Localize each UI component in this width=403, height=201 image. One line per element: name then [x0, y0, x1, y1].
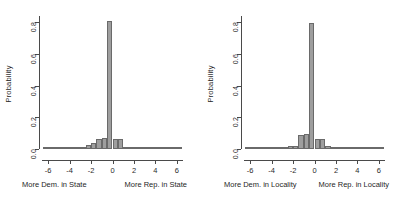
x-tick-label-right-6: 6: [377, 166, 381, 175]
histogram-bar: [379, 147, 384, 149]
y-tick-label-right-3: 0.6: [232, 54, 239, 64]
x-tick-label-right-0: -6: [247, 166, 254, 175]
y-tick-label-right-0: 0.0: [232, 149, 239, 159]
histogram-bar: [309, 23, 314, 149]
x-tick-right-5: [357, 160, 358, 164]
histogram-bars-left: [40, 16, 185, 149]
x-tick-right-3: [315, 160, 316, 164]
x-tick-right-1: [272, 160, 273, 164]
plot-area-left: [40, 16, 185, 149]
x-tick-right-6: [379, 160, 380, 164]
x-tick-label-right-2: -2: [290, 166, 297, 175]
panel-state-histogram: Probability 0.00.20.40.60.8 -6-4-20246 M…: [0, 0, 201, 201]
x-tick-label-left-6: 6: [175, 166, 179, 175]
histogram-bar: [107, 21, 112, 149]
y-tick-label-left-1: 0.2: [30, 117, 37, 127]
x-tick-right-2: [293, 160, 294, 164]
x-tick-left-0: [48, 160, 49, 164]
x-tick-right-4: [336, 160, 337, 164]
x-axis-line-right: -6-4-20246: [244, 160, 385, 161]
panel-locality-histogram: Probability 0.00.20.40.60.8 -6-4-20246 M…: [202, 0, 403, 201]
plot-area-right: [242, 16, 387, 149]
caption-more-rep-locality: More Rep. in Locality: [319, 180, 389, 189]
y-tick-label-right-1: 0.2: [232, 117, 239, 127]
x-tick-left-2: [91, 160, 92, 164]
caption-more-rep-state: More Rep. in State: [124, 180, 187, 189]
x-tick-right-0: [250, 160, 251, 164]
y-tick-label-right-2: 0.4: [232, 86, 239, 96]
x-tick-label-left-1: -4: [66, 166, 73, 175]
x-tick-label-left-4: 2: [132, 166, 136, 175]
x-tick-left-4: [134, 160, 135, 164]
x-tick-label-right-3: 0: [312, 166, 316, 175]
y-tick-label-left-3: 0.6: [30, 54, 37, 64]
x-tick-label-right-1: -4: [268, 166, 275, 175]
x-tick-left-1: [70, 160, 71, 164]
x-tick-label-left-3: 0: [110, 166, 114, 175]
y-tick-label-left-4: 0.8: [30, 22, 37, 32]
x-tick-label-left-5: 4: [153, 166, 157, 175]
caption-more-dem-locality: More Dem. in Locality: [224, 180, 297, 189]
caption-more-dem-state: More Dem. in State: [22, 180, 87, 189]
x-tick-left-5: [155, 160, 156, 164]
y-axis-title-right: Probability: [206, 65, 215, 102]
x-tick-label-left-0: -6: [45, 166, 52, 175]
x-tick-label-left-2: -2: [88, 166, 95, 175]
y-tick-label-right-4: 0.8: [232, 22, 239, 32]
y-tick-label-left-0: 0.0: [30, 149, 37, 159]
y-tick-label-left-2: 0.4: [30, 86, 37, 96]
histogram-bar: [177, 147, 182, 149]
x-axis-line-left: -6-4-20246: [42, 160, 183, 161]
figure-two-histograms: Probability 0.00.20.40.60.8 -6-4-20246 M…: [0, 0, 403, 201]
x-tick-label-right-4: 2: [334, 166, 338, 175]
x-tick-label-right-5: 4: [355, 166, 359, 175]
histogram-bars-right: [242, 16, 387, 149]
y-axis-title-left: Probability: [4, 65, 13, 102]
x-tick-left-6: [177, 160, 178, 164]
x-tick-left-3: [113, 160, 114, 164]
